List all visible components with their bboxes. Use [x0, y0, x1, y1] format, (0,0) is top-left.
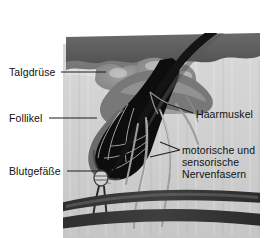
- label-nerve-fibers-line2: sensorische: [182, 156, 269, 168]
- figure-canvas: Talgdrüse Follikel Blutgefäße Haarmuskel…: [0, 0, 269, 238]
- label-nerve-fibers-line1: motorische und: [182, 144, 269, 156]
- label-nerve-fibers: motorische und sensorische Nervenfasern: [182, 144, 269, 181]
- label-nerve-fibers-line3: Nervenfasern: [182, 168, 269, 180]
- label-blood-vessels: Blutgefäße: [9, 165, 61, 177]
- dermal-papilla: [94, 170, 108, 186]
- label-sebaceous-gland: Talgdrüse: [9, 66, 55, 78]
- label-follicle: Follikel: [9, 112, 42, 124]
- label-hair-muscle: Haarmuskel: [196, 108, 253, 120]
